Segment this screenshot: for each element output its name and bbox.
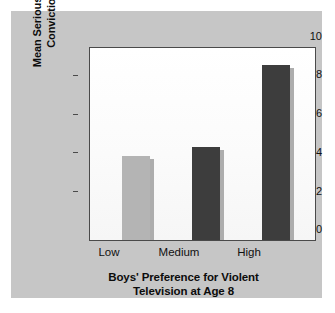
- figure: Mean Seriousness of Criminal Convictions…: [0, 0, 335, 313]
- x-tick-label-medium: Medium: [139, 245, 219, 259]
- chart-panel: Mean Seriousness of Criminal Convictions…: [11, 11, 322, 298]
- x-tick-label-low: Low: [69, 245, 149, 259]
- y-axis-title-line-1: Mean Seriousness of Criminal: [30, 0, 44, 67]
- y-tick-mark-8: [73, 75, 78, 76]
- y-tick-label-10: 10: [298, 31, 322, 42]
- bar-medium: [192, 147, 220, 240]
- x-tick-label-high: High: [209, 245, 289, 259]
- x-axis-title-line-1: Boys' Preference for Violent: [51, 270, 316, 284]
- y-tick-mark-6: [73, 114, 78, 115]
- bar-high: [262, 65, 290, 240]
- x-axis-title-line-2: Television at Age 8: [51, 284, 316, 298]
- bar-low: [122, 156, 150, 240]
- plot-area: [89, 47, 316, 241]
- y-tick-mark-4: [73, 152, 78, 153]
- y-tick-mark-2: [73, 191, 78, 192]
- x-axis-title: Boys' Preference for Violent Television …: [51, 270, 316, 298]
- y-axis-title: Mean Seriousness of Criminal Convictions…: [24, 0, 64, 87]
- y-axis-title-line-2: Convictions by Age 30: [44, 0, 58, 48]
